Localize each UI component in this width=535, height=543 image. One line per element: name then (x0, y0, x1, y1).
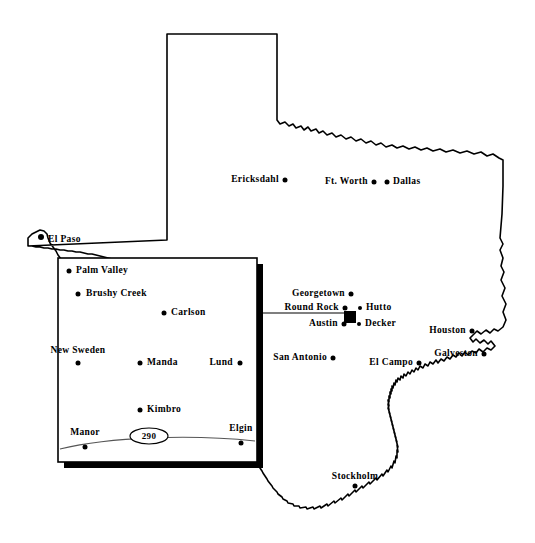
city-dot-ericksdahl[interactable] (283, 178, 288, 183)
highway-290-shield-label: 290 (142, 431, 156, 441)
city-label-el-paso: El Paso (48, 235, 81, 245)
city-label-georgetown: Georgetown (292, 289, 345, 299)
inset-city-label-kimbro: Kimbro (147, 405, 181, 415)
inset-city-label-lund: Lund (209, 358, 233, 368)
city-dot-hutto[interactable] (358, 306, 362, 310)
inset-city-dot-lund[interactable] (238, 361, 243, 366)
city-dot-dallas[interactable] (385, 180, 390, 185)
city-label-hutto: Hutto (366, 303, 392, 313)
inset-city-label-brushy-creek: Brushy Creek (86, 289, 147, 299)
city-dot-el-paso[interactable] (38, 234, 44, 240)
inset-city-label-manor: Manor (70, 428, 100, 438)
city-label-austin: Austin (309, 319, 338, 329)
city-label-stockholm: Stockholm (332, 472, 378, 482)
city-dot-decker[interactable] (357, 322, 361, 326)
inset-city-dot-palm-valley[interactable] (67, 269, 72, 274)
inset-city-dot-kimbro[interactable] (138, 408, 143, 413)
city-dot-ft-worth[interactable] (372, 180, 377, 185)
inset-city-label-elgin: Elgin (229, 424, 252, 434)
city-dot-san-antonio[interactable] (331, 356, 336, 361)
city-label-galveston: Galveston (434, 349, 478, 359)
city-dot-houston[interactable] (470, 329, 475, 334)
city-dot-georgetown[interactable] (349, 292, 354, 297)
city-label-dallas: Dallas (393, 177, 420, 187)
austin-metro-square-marker[interactable] (344, 311, 356, 323)
city-dot-el-campo[interactable] (417, 361, 422, 366)
inset-city-dot-new-sweden[interactable] (76, 361, 81, 366)
city-dot-round-rock[interactable] (343, 306, 348, 311)
inset-city-label-carlson: Carlson (171, 308, 206, 318)
city-label-ft-worth: Ft. Worth (325, 177, 368, 187)
inset-city-label-palm-valley: Palm Valley (76, 266, 128, 276)
inset-city-dot-carlson[interactable] (162, 311, 167, 316)
city-label-el-campo: El Campo (369, 358, 413, 368)
inset-city-label-new-sweden: New Sweden (51, 346, 106, 356)
city-dot-galveston[interactable] (482, 352, 487, 357)
city-label-decker: Decker (365, 319, 396, 329)
city-label-san-antonio: San Antonio (273, 353, 327, 363)
city-label-houston: Houston (429, 326, 466, 336)
inset-city-dot-brushy-creek[interactable] (76, 292, 81, 297)
inset-city-dot-manda[interactable] (138, 361, 143, 366)
inset-city-dot-elgin[interactable] (239, 441, 244, 446)
city-dot-stockholm[interactable] (353, 484, 358, 489)
inset-city-dot-manor[interactable] (83, 445, 88, 450)
inset-city-label-manda: Manda (147, 358, 178, 368)
texas-map: El Paso Ericksdahl Ft. Worth Dallas Geor… (0, 0, 535, 543)
city-label-round-rock: Round Rock (285, 303, 339, 313)
city-label-ericksdahl: Ericksdahl (231, 175, 279, 185)
